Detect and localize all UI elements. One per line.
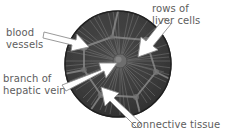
label-rows-of-liver-cells: rows of liver cells	[152, 3, 200, 26]
figure-canvas: blood vessels rows of liver cells branch…	[0, 0, 229, 137]
label-branch-of-hepatic-vein: branch of hepatic vein	[3, 73, 66, 96]
label-blood-vessels: blood vessels	[6, 27, 43, 50]
label-connective-tissue: connective tissue	[131, 119, 220, 131]
